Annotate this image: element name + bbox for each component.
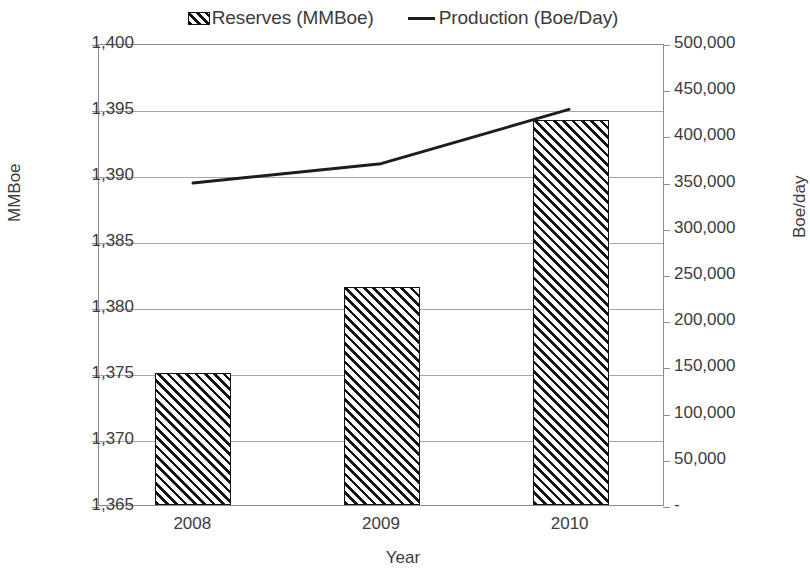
x-axis-title: Year: [0, 548, 806, 568]
axis-tick-label: 50,000: [674, 449, 726, 469]
axis-tick-label: 250,000: [674, 264, 735, 284]
axis-tick: [663, 137, 670, 138]
axis-tick: [663, 461, 670, 462]
axis-tick: [663, 45, 670, 46]
axis-tick: [663, 322, 670, 323]
legend-item-production: Production (Boe/Day): [408, 7, 619, 29]
production-line: [193, 109, 569, 183]
x-axis-tick-label: 2009: [287, 514, 476, 534]
axis-tick-label: 1,395: [91, 99, 134, 119]
axis-tick: [663, 368, 670, 369]
axis-tick-label: 450,000: [674, 79, 735, 99]
axis-tick-label: 200,000: [674, 310, 735, 330]
axis-tick-label: 1,385: [91, 231, 134, 251]
axis-tick: [663, 415, 670, 416]
axis-tick: [663, 230, 670, 231]
legend-item-label: Reserves (MMBoe): [212, 7, 374, 29]
left-axis-title: MMBoe: [5, 163, 25, 222]
axis-tick-label: 1,400: [91, 33, 134, 53]
axis-tick-label: 150,000: [674, 356, 735, 376]
legend-item-reserves: Reserves (MMBoe): [188, 7, 374, 29]
x-axis-tick-label: 2008: [98, 514, 287, 534]
axis-tick: [663, 184, 670, 185]
axis-tick-label: 1,380: [91, 297, 134, 317]
line-swatch-icon: [408, 17, 435, 20]
line-series: [99, 45, 663, 505]
axis-tick: [663, 91, 670, 92]
axis-tick-label: 500,000: [674, 33, 735, 53]
plot-area: [98, 44, 664, 506]
chart-legend: Reserves (MMBoe) Production (Boe/Day): [0, 4, 806, 32]
axis-tick: [663, 507, 670, 508]
axis-tick-label: 350,000: [674, 172, 735, 192]
axis-tick-label: 1,375: [91, 363, 134, 383]
axis-tick-label: 1,365: [91, 495, 134, 515]
axis-tick-label: 1,390: [91, 165, 134, 185]
axis-tick: [663, 276, 670, 277]
x-axis-tick-label: 2010: [475, 514, 664, 534]
axis-tick-label: 100,000: [674, 403, 735, 423]
axis-tick-label: 400,000: [674, 125, 735, 145]
hatch-swatch-icon: [188, 12, 210, 25]
right-axis-title: Boe/day: [790, 176, 810, 238]
axis-tick-label: -: [674, 495, 680, 515]
legend-item-label: Production (Boe/Day): [439, 7, 619, 29]
axis-tick-label: 1,370: [91, 429, 134, 449]
axis-tick-label: 300,000: [674, 218, 735, 238]
